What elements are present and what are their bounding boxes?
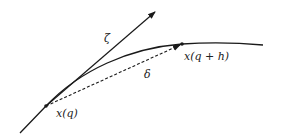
delta-label: δ: [144, 68, 151, 81]
tangent-chord-diagram: ζ δ x(q) x(q + h): [0, 0, 281, 140]
tangent-vector-zeta: [46, 12, 155, 106]
point-x-q-plus-h: [180, 42, 184, 46]
zeta-label: ζ: [104, 32, 111, 45]
start-point-label: x(q): [56, 107, 78, 120]
point-x-q: [44, 104, 48, 108]
chord-delta: [46, 45, 180, 106]
end-point-label: x(q + h): [184, 50, 229, 63]
